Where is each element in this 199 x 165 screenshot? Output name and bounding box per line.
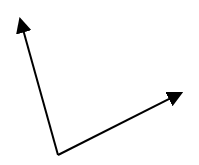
- diagram-canvas: [0, 0, 199, 165]
- vector-right-arrow: [58, 94, 180, 155]
- vector-diagram: [0, 0, 199, 165]
- vector-up-left-arrow: [21, 21, 58, 155]
